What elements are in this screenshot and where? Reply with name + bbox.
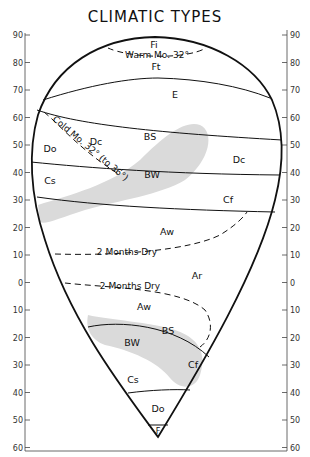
right-axis-tick-label: 30 bbox=[290, 361, 300, 370]
hypothetical-continent-outline bbox=[32, 37, 282, 437]
label-cs-north: Cs bbox=[44, 175, 56, 186]
label-f-south: F bbox=[156, 427, 161, 436]
warm-month-label: Warm Mo. 32° bbox=[125, 50, 189, 60]
left-axis-tick-label: 10 bbox=[13, 306, 23, 315]
label-cf-south: Cf bbox=[188, 359, 199, 370]
left-axis-tick-label: 60 bbox=[13, 114, 23, 123]
label-dc-east: Dc bbox=[233, 154, 246, 165]
arid-region-south bbox=[87, 315, 202, 387]
left-axis-tick-label: 70 bbox=[13, 86, 23, 95]
label-do-south: Do bbox=[151, 403, 164, 414]
label-ar: Ar bbox=[192, 270, 202, 281]
do-boundary-south bbox=[128, 390, 190, 393]
label-cf-north: Cf bbox=[223, 194, 234, 205]
right-axis-tick-label: 60 bbox=[290, 444, 300, 453]
left-axis-tick-label: 20 bbox=[13, 224, 23, 233]
right-axis-tick-label: 90 bbox=[290, 31, 300, 40]
right-axis-tick-label: 40 bbox=[290, 389, 300, 398]
right-axis-tick-label: 10 bbox=[290, 306, 300, 315]
right-axis-tick-label: 80 bbox=[290, 59, 300, 68]
left-axis-tick-label: 90 bbox=[13, 31, 23, 40]
label-fi: Fi bbox=[150, 39, 157, 50]
right-axis-tick-label: 50 bbox=[290, 141, 300, 150]
right-axis-tick-label: 30 bbox=[290, 196, 300, 205]
left-axis-tick-label: 0 bbox=[18, 279, 23, 288]
left-axis-tick-label: 20 bbox=[13, 334, 23, 343]
label-ft: Ft bbox=[151, 61, 160, 72]
label-bs-north: BS bbox=[144, 131, 156, 142]
cold-month-label: Cold Mo. 32° (to 36°) bbox=[51, 114, 131, 183]
left-axis-tick-label: 50 bbox=[13, 141, 23, 150]
left-axis-tick-label: 40 bbox=[13, 169, 23, 178]
label-e: E bbox=[172, 89, 178, 100]
label-cs-south: Cs bbox=[127, 374, 139, 385]
right-axis-tick-label: 20 bbox=[290, 334, 300, 343]
left-axis-tick-label: 10 bbox=[13, 251, 23, 260]
label-bw-north: BW bbox=[144, 169, 160, 180]
left-axis-tick-label: 30 bbox=[13, 196, 23, 205]
label-do-north: Do bbox=[43, 143, 56, 154]
left-axis-tick-label: 80 bbox=[13, 59, 23, 68]
right-axis-tick-label: 0 bbox=[290, 279, 295, 288]
climatic-types-diagram: 9080706050403020100102030405060 90807060… bbox=[0, 0, 310, 457]
right-axis-tick-label: 60 bbox=[290, 114, 300, 123]
right-axis-tick-label: 10 bbox=[290, 251, 300, 260]
left-axis-tick-label: 30 bbox=[13, 361, 23, 370]
right-axis-tick-label: 50 bbox=[290, 416, 300, 425]
label-bw-south: BW bbox=[124, 337, 140, 348]
left-axis-tick-label: 50 bbox=[13, 416, 23, 425]
label-aw-south: Aw bbox=[137, 301, 151, 312]
dry-south-label: 2 Months Dry bbox=[100, 281, 161, 291]
label-bs-south: BS bbox=[162, 325, 174, 336]
right-axis-tick-label: 70 bbox=[290, 86, 300, 95]
left-axis-tick-label: 40 bbox=[13, 389, 23, 398]
label-aw-north: Aw bbox=[160, 226, 174, 237]
left-axis-tick-label: 60 bbox=[13, 444, 23, 453]
right-axis-tick-label: 20 bbox=[290, 224, 300, 233]
dry-north-label: 2 Months Dry bbox=[97, 247, 158, 257]
right-axis-tick-label: 40 bbox=[290, 169, 300, 178]
e-boundary bbox=[43, 78, 270, 100]
